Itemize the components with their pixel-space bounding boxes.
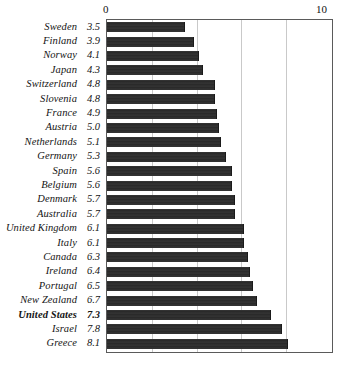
category-label-row: Germany5.3 (37, 148, 100, 163)
category-value: 6.1 (82, 220, 100, 235)
category-name: Netherlands (25, 136, 77, 147)
category-value: 5.6 (82, 177, 100, 192)
bar (107, 324, 282, 334)
category-label-row: Switzerland4.8 (26, 76, 100, 91)
category-label-row: Norway4.1 (43, 47, 100, 62)
category-label-row: Austria5.0 (45, 119, 100, 134)
category-label-row: Denmark5.7 (37, 191, 100, 206)
category-value: 3.9 (82, 33, 100, 48)
bar (107, 238, 244, 248)
category-value: 6.1 (82, 235, 100, 250)
category-name: Australia (37, 208, 77, 219)
category-name: Austria (45, 121, 77, 132)
bar (107, 22, 185, 32)
bar (107, 152, 226, 162)
category-value: 4.8 (82, 91, 100, 106)
x-axis-tick-label-min: 0 (103, 3, 109, 15)
category-value: 5.6 (82, 163, 100, 178)
category-value: 5.0 (82, 119, 100, 134)
category-label-row: United Kingdom6.1 (6, 220, 100, 235)
category-label-row: Greece8.1 (46, 335, 100, 350)
category-value: 7.8 (82, 321, 100, 336)
category-label-row: Ireland6.4 (46, 263, 100, 278)
horizontal-bar-chart: 0 10 Sweden3.5Finland3.9Norway4.1Japan4.… (0, 0, 346, 373)
category-name: New Zealand (20, 294, 77, 305)
bar (107, 65, 203, 75)
category-label-row: France4.9 (46, 105, 100, 120)
bar (107, 181, 232, 191)
bars-layer (107, 20, 332, 352)
category-label-row: Japan4.3 (51, 62, 100, 77)
category-value: 5.3 (82, 148, 100, 163)
category-name: Portugal (39, 280, 77, 291)
bar (107, 195, 235, 205)
category-name: Denmark (37, 193, 77, 204)
x-axis-tick-label-max: 10 (316, 3, 327, 15)
bar (107, 267, 250, 277)
category-label-row: Canada6.3 (43, 249, 100, 264)
category-name: Belgium (41, 179, 77, 190)
category-name: Japan (51, 64, 77, 75)
bar (107, 37, 194, 47)
category-name: Sweden (44, 21, 77, 32)
category-value: 4.3 (82, 62, 100, 77)
category-name: Ireland (46, 265, 77, 276)
category-value: 4.1 (82, 47, 100, 62)
bar (107, 296, 257, 306)
category-label-row: New Zealand6.7 (20, 292, 100, 307)
bar (107, 123, 219, 133)
category-label-row: Italy6.1 (57, 235, 100, 250)
category-value: 6.4 (82, 263, 100, 278)
category-name: Germany (37, 150, 77, 161)
category-value: 5.7 (82, 206, 100, 221)
category-name: Switzerland (26, 78, 77, 89)
category-value: 8.1 (82, 335, 100, 350)
category-name: Finland (43, 35, 77, 46)
category-value: 7.3 (82, 307, 100, 322)
category-name: Spain (53, 165, 77, 176)
category-label-row: Israel7.8 (52, 321, 100, 336)
bar (107, 310, 271, 320)
category-value: 4.9 (82, 105, 100, 120)
category-value: 5.1 (82, 134, 100, 149)
category-label-row: Australia5.7 (37, 206, 100, 221)
bar (107, 209, 235, 219)
category-value: 5.7 (82, 191, 100, 206)
category-name: Slovenia (40, 93, 77, 104)
bar (107, 137, 221, 147)
category-value: 6.5 (82, 278, 100, 293)
category-name: France (46, 107, 77, 118)
bar (107, 109, 217, 119)
bar (107, 281, 253, 291)
bar (107, 339, 288, 349)
category-label-row: Belgium5.6 (41, 177, 100, 192)
category-label-row: Sweden3.5 (44, 19, 100, 34)
category-name: United Kingdom (6, 222, 77, 233)
category-value: 3.5 (82, 19, 100, 34)
category-name: Norway (43, 49, 77, 60)
category-name: Italy (57, 237, 77, 248)
category-name: Greece (46, 337, 77, 348)
category-name: Israel (52, 323, 77, 334)
category-name: Canada (43, 251, 77, 262)
category-label-row: Slovenia4.8 (40, 91, 100, 106)
plot-area (106, 19, 333, 353)
category-label-row: Spain5.6 (53, 163, 100, 178)
category-label-row: United States7.3 (18, 307, 100, 322)
bar (107, 80, 215, 90)
category-label-row: Portugal6.5 (39, 278, 100, 293)
bar (107, 51, 199, 61)
bar (107, 252, 248, 262)
bar (107, 224, 244, 234)
category-value: 6.3 (82, 249, 100, 264)
category-label-row: Finland3.9 (43, 33, 100, 48)
category-label-column: Sweden3.5Finland3.9Norway4.1Japan4.3Swit… (0, 19, 104, 353)
category-label-row: Netherlands5.1 (25, 134, 100, 149)
bar (107, 94, 215, 104)
category-value: 6.7 (82, 292, 100, 307)
category-name: United States (18, 309, 77, 320)
category-value: 4.8 (82, 76, 100, 91)
bar (107, 166, 232, 176)
